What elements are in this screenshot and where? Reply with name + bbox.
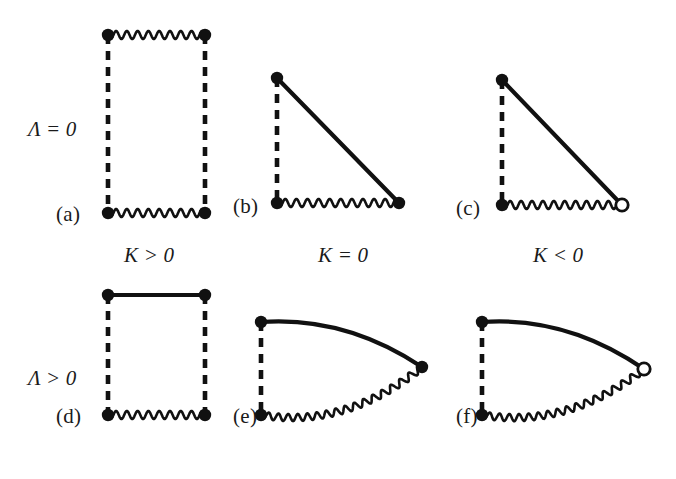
- vertex-dot-d-bottom-right: [199, 409, 211, 421]
- panel-c-bottom-wavy-edge: [502, 201, 622, 209]
- vertex-dot-a-top-right: [199, 29, 211, 41]
- row-label-lambda-positive: Λ > 0: [28, 366, 76, 391]
- panel-f-top-solid-curve: [482, 321, 644, 369]
- panel-c-hypotenuse-solid-edge: [502, 80, 622, 205]
- vertex-dot-d-top-right: [199, 289, 211, 301]
- panel-label-b: (b): [233, 194, 258, 219]
- diagram-canvas: [0, 0, 676, 479]
- panel-a-top-wavy-edge: [108, 31, 205, 39]
- vertex-dot-c-bottom-left: [496, 199, 508, 211]
- column-label-k-zero: K = 0: [318, 243, 368, 268]
- vertex-dot-f-top-left: [476, 316, 488, 328]
- panel-label-e: (e): [233, 404, 257, 429]
- panel-label-f: (f): [456, 404, 478, 429]
- panel-a-bottom-wavy-edge: [108, 209, 205, 217]
- vertex-dot-e-top-left: [255, 316, 267, 328]
- column-label-k-negative: K < 0: [533, 243, 583, 268]
- vertex-dot-d-bottom-left: [102, 409, 114, 421]
- vertex-open-circle-f-right-tip: [638, 363, 650, 375]
- panel-b-hypotenuse-solid-edge: [277, 78, 399, 203]
- vertex-open-circle-c-bottom-right: [616, 199, 628, 211]
- vertex-dot-e-right-tip: [416, 361, 428, 373]
- penrose-diagram-figure: Λ = 0 Λ > 0 K > 0 K = 0 K < 0 (a) (b) (c…: [0, 0, 676, 479]
- vertex-dot-a-top-left: [102, 29, 114, 41]
- panel-f-bottom-wavy-curve: [482, 368, 644, 422]
- panel-label-d: (d): [56, 404, 81, 429]
- row-label-lambda-zero: Λ = 0: [28, 117, 76, 142]
- column-label-k-positive: K > 0: [124, 243, 174, 268]
- panel-label-a: (a): [56, 202, 80, 227]
- vertex-dot-b-apex: [271, 72, 283, 84]
- vertex-dot-b-bottom-right: [393, 197, 405, 209]
- vertex-dot-a-bottom-right: [199, 207, 211, 219]
- panel-e-bottom-wavy-curve: [261, 366, 422, 421]
- panel-d-bottom-wavy-edge: [108, 411, 205, 419]
- panel-e-top-solid-curve: [261, 321, 422, 367]
- vertex-dot-c-apex: [496, 74, 508, 86]
- vertex-dot-b-bottom-left: [271, 197, 283, 209]
- panel-b-bottom-wavy-edge: [277, 199, 399, 207]
- panel-label-c: (c): [456, 196, 480, 221]
- vertex-dot-d-top-left: [102, 289, 114, 301]
- vertex-dot-a-bottom-left: [102, 207, 114, 219]
